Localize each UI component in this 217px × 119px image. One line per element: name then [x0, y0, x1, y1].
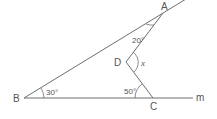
angle-label-d: x [140, 58, 145, 68]
point-label-d: D [114, 57, 121, 68]
line-label-m: m [196, 92, 204, 103]
angle-arc-a [146, 24, 154, 25]
angle-label-c: 50° [124, 87, 136, 96]
angle-label-a: 20° [132, 36, 144, 45]
angle-label-b: 30° [46, 88, 58, 97]
angle-arc-d [133, 52, 138, 72]
point-label-b: B [13, 93, 20, 104]
angle-arc-b [41, 88, 44, 98]
point-label-a: A [161, 1, 168, 12]
point-label-c: C [150, 101, 157, 112]
geometry-diagram: A B C D m 30° 20° 50° x [0, 0, 217, 119]
